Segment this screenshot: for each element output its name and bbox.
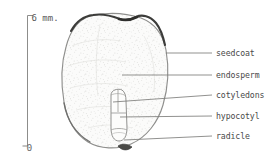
label-cotyledons: cotyledons [216,90,264,100]
label-radicle: radicle [216,131,250,141]
label-endosperm: endosperm [216,70,260,80]
label-seedcoat: seedcoat [216,48,255,58]
scale-bar-top-label: 6 mm. [32,13,59,23]
embryo [111,89,127,141]
label-hypocotyl: hypocotyl [216,111,260,121]
seed-anatomy-figure: 6 mm. 0 [0,0,277,162]
scale-bar-bottom-label: 0 [27,142,33,153]
